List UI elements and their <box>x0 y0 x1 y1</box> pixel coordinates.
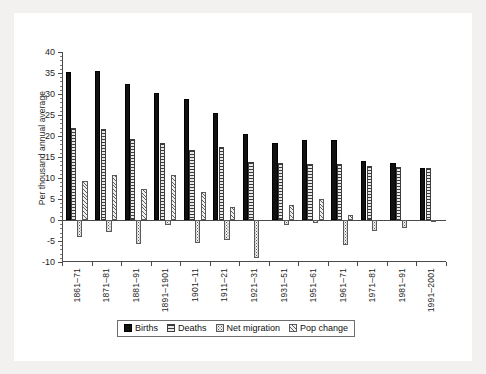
x-tick <box>239 262 240 266</box>
x-tick <box>121 262 122 266</box>
bar-deaths <box>160 143 165 220</box>
y-tick-minor <box>60 237 62 238</box>
bar-births <box>331 140 336 220</box>
y-tick <box>58 52 62 53</box>
bar-deaths <box>307 164 312 220</box>
bar-pop-change <box>319 199 324 220</box>
y-tick-minor <box>60 203 62 204</box>
legend-swatch-births-icon <box>124 324 132 332</box>
y-tick-minor <box>60 182 62 183</box>
bar-deaths <box>248 162 253 220</box>
y-tick-minor <box>60 165 62 166</box>
x-tick-label: 1991–2001 <box>426 268 436 312</box>
y-tick-label: 20 <box>45 131 55 141</box>
bar-net-migration <box>284 220 289 225</box>
bar-births <box>272 143 277 220</box>
legend-swatch-pop-change-icon <box>289 324 297 332</box>
y-tick <box>58 199 62 200</box>
y-tick-minor <box>60 216 62 217</box>
x-tick-label: 1901–11 <box>190 268 200 302</box>
y-tick-minor <box>60 161 62 162</box>
y-tick-minor <box>60 77 62 78</box>
legend-item-pop-change: Pop change <box>289 323 348 333</box>
bar-net-migration <box>106 220 111 232</box>
bar-births <box>243 134 248 220</box>
y-tick-minor <box>60 207 62 208</box>
x-tick <box>180 262 181 266</box>
y-tick-minor <box>60 98 62 99</box>
x-tick-label: 1971–81 <box>367 268 377 303</box>
y-tick-minor <box>60 140 62 141</box>
y-tick-minor <box>60 233 62 234</box>
y-tick-minor <box>60 119 62 120</box>
bar-births <box>302 140 307 220</box>
x-tick-label: 1881–91 <box>131 268 141 303</box>
y-tick-label: 25 <box>45 110 55 120</box>
y-tick-label: 35 <box>45 68 55 78</box>
x-tick-label: 1981–91 <box>397 268 407 303</box>
x-tick-label: 1921–31 <box>249 268 259 303</box>
y-tick <box>58 115 62 116</box>
bar-deaths <box>219 147 224 220</box>
y-tick-minor <box>60 123 62 124</box>
x-tick-label: 1961–71 <box>338 268 348 303</box>
bar-net-migration <box>431 220 436 222</box>
x-tick <box>416 262 417 266</box>
bar-net-migration <box>402 220 407 228</box>
bar-births <box>361 161 366 220</box>
y-tick-minor <box>60 81 62 82</box>
bar-deaths <box>101 129 106 220</box>
bar-net-migration <box>77 220 82 237</box>
y-tick-minor <box>60 144 62 145</box>
y-tick <box>58 73 62 74</box>
y-tick-minor <box>60 149 62 150</box>
x-tick <box>151 262 152 266</box>
plot-area: 4035302520151050-5-10 1861–711871–811881… <box>62 52 446 262</box>
page-canvas: Per thousand annual average 403530252015… <box>14 13 472 361</box>
bar-births <box>213 113 218 220</box>
bar-deaths <box>278 163 283 220</box>
bar-pop-change <box>201 192 206 220</box>
x-tick-label: 1931–51 <box>279 268 289 303</box>
y-tick <box>58 178 62 179</box>
y-tick-minor <box>60 186 62 187</box>
x-tick <box>269 262 270 266</box>
y-tick-minor <box>60 60 62 61</box>
bar-births <box>154 93 159 220</box>
y-tick-minor <box>60 224 62 225</box>
bar-births <box>390 163 395 220</box>
y-tick-minor <box>60 56 62 57</box>
bar-deaths <box>189 150 194 220</box>
bar-deaths <box>426 168 431 220</box>
bar-net-migration <box>136 220 141 244</box>
bar-pop-change <box>141 189 146 220</box>
x-tick <box>387 262 388 266</box>
bar-births <box>95 71 100 220</box>
bar-net-migration <box>343 220 348 245</box>
bar-net-migration <box>195 220 200 243</box>
y-tick-minor <box>60 107 62 108</box>
bar-deaths <box>396 167 401 220</box>
y-tick <box>58 157 62 158</box>
bar-deaths <box>367 166 372 220</box>
legend-label-net-migration: Net migration <box>227 323 281 333</box>
bar-births <box>125 84 130 220</box>
bar-deaths <box>71 128 76 220</box>
x-axis-line <box>62 261 446 262</box>
legend-label-deaths: Deaths <box>178 323 207 333</box>
y-tick-minor <box>60 254 62 255</box>
legend-label-births: Births <box>135 323 158 333</box>
legend-swatch-net-migration-icon <box>216 324 224 332</box>
bar-pop-change <box>82 181 87 220</box>
bar-births <box>420 168 425 220</box>
y-tick-minor <box>60 195 62 196</box>
y-tick-label: 30 <box>45 89 55 99</box>
bar-births <box>184 99 189 220</box>
bar-net-migration <box>254 220 259 258</box>
population-change-bar-chart: Per thousand annual average 403530252015… <box>14 13 472 361</box>
y-tick-minor <box>60 111 62 112</box>
y-tick-label: -10 <box>42 257 55 267</box>
y-tick-minor <box>60 69 62 70</box>
x-tick <box>210 262 211 266</box>
page-frame: Per thousand annual average 403530252015… <box>0 0 486 374</box>
